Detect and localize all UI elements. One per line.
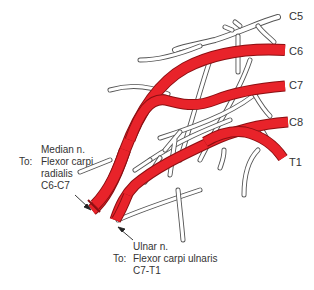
median-roots: C6-C7: [41, 180, 70, 192]
median-nerve-name: Median n.: [41, 144, 85, 156]
median-callout-arrow: [75, 195, 91, 210]
root-label-c5: C5: [289, 11, 303, 23]
ulnar-muscle: Flexor carpi ulnaris: [133, 253, 217, 265]
median-muscle-line1: Flexor carpi: [41, 156, 93, 168]
brachial-plexus-diagram: C5 C6 C7 C8 T1 Median n. To: Flexor carp…: [0, 0, 314, 290]
median-to-prefix: To:: [19, 156, 32, 168]
ulnar-roots: C7-T1: [133, 265, 161, 277]
ulnar-callout-arrow: [118, 227, 133, 240]
root-label-t1: T1: [289, 157, 302, 169]
root-label-c6: C6: [289, 46, 303, 58]
median-muscle-line2: radialis: [41, 168, 73, 180]
root-label-c8: C8: [289, 117, 303, 129]
ulnar-nerve-name: Ulnar n.: [133, 241, 168, 253]
ulnar-to-prefix: To:: [113, 253, 126, 265]
root-label-c7: C7: [289, 80, 303, 92]
